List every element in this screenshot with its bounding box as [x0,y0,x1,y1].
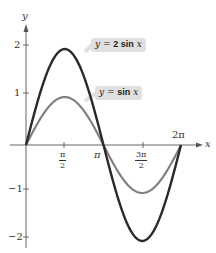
y-axis-label: y [22,11,28,21]
x-tick-three-half-pi: 3π 2 [135,151,147,170]
x-tick-2pi: 2π [172,130,185,140]
x-axis-arrow-icon [196,143,203,148]
y-tick-1: 1 [14,88,20,98]
legend-sin-x: y = sin x [95,86,142,100]
x-tick-pi: π [94,150,101,160]
y-tick-neg1: −1 [8,184,23,194]
legend-2sin-x: y = 2 sin x [91,38,146,52]
y-tick-2: 2 [14,40,20,50]
y-tick-neg2: −2 [8,232,23,242]
x-axis-label: x [205,139,211,149]
x-tick-half-pi: π 2 [59,151,66,170]
y-axis-arrow-icon [24,24,29,32]
